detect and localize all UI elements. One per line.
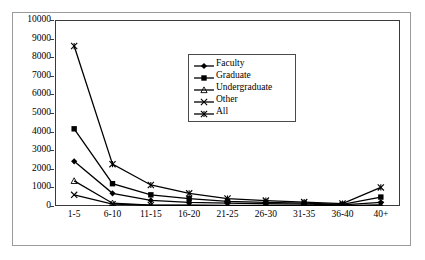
data-point-asterisk-marker <box>378 184 384 190</box>
data-point-square-marker <box>148 192 153 197</box>
x-axis-tick-label: 11-15 <box>140 210 162 220</box>
y-axis-tick-label: 10000 <box>5 15 51 25</box>
y-axis-tick-labels: 0100020003000400050006000700080009000100… <box>0 20 51 206</box>
y-axis-tick-mark <box>50 76 54 77</box>
data-point-square-marker <box>378 194 383 199</box>
y-axis-tick-mark <box>50 169 54 170</box>
y-axis-tick-label: 6000 <box>5 89 51 99</box>
y-axis-tick-mark <box>50 94 54 95</box>
y-axis-tick-mark <box>50 20 54 21</box>
legend-cross-icon <box>193 94 215 106</box>
data-point-asterisk-marker <box>109 161 115 167</box>
x-axis-tick-label: 31-35 <box>293 210 315 220</box>
legend-item-label: Graduate <box>216 71 251 81</box>
x-axis-tick-labels: 1-56-1011-1516-2021-2526-3031-3536-4040+ <box>55 210 400 230</box>
x-axis-tick-label: 36-40 <box>331 210 353 220</box>
data-point-triangle-marker <box>71 178 77 184</box>
chart-legend: FacultyGraduateUndergraduateOtherAll <box>188 54 296 122</box>
legend-item-label: Faculty <box>216 59 245 69</box>
legend-triangle-icon <box>193 82 215 94</box>
y-axis-tick-mark <box>50 39 54 40</box>
legend-item-label: Other <box>216 95 238 105</box>
data-point-diamond-marker <box>201 63 207 69</box>
y-axis-tick-mark <box>50 113 54 114</box>
legend-item-faculty[interactable]: Faculty <box>193 58 291 70</box>
legend-diamond-icon <box>193 58 215 70</box>
y-axis-tick-mark <box>50 206 54 207</box>
chart-figure: 0100020003000400050006000700080009000100… <box>0 0 425 260</box>
legend-item-label: Undergraduate <box>216 83 272 93</box>
x-axis-tick-label: 21-25 <box>216 210 238 220</box>
x-axis-tick-label: 40+ <box>373 210 388 220</box>
y-axis-tick-label: 1000 <box>5 182 51 192</box>
series-line <box>74 129 381 205</box>
y-axis-tick-mark <box>50 187 54 188</box>
legend-square-icon <box>193 70 215 82</box>
y-axis-tick-label: 2000 <box>5 164 51 174</box>
y-axis-tick-label: 3000 <box>5 145 51 155</box>
legend-asterisk-icon <box>193 106 215 118</box>
legend-item-all[interactable]: All <box>193 106 291 118</box>
legend-item-graduate[interactable]: Graduate <box>193 70 291 82</box>
legend-item-label: All <box>216 107 228 117</box>
data-point-square-marker <box>110 181 115 186</box>
y-axis-tick-label: 9000 <box>5 34 51 44</box>
x-axis-tick-label: 1-5 <box>68 210 81 220</box>
data-point-square-marker <box>186 196 191 201</box>
data-point-square-marker <box>71 126 76 131</box>
data-point-asterisk-marker <box>71 43 77 49</box>
y-axis-tick-label: 8000 <box>5 52 51 62</box>
x-axis-tick-label: 16-20 <box>178 210 200 220</box>
y-axis-tick-label: 0 <box>5 201 51 211</box>
y-axis-tick-label: 5000 <box>5 108 51 118</box>
y-axis-tick-label: 4000 <box>5 127 51 137</box>
legend-item-undergraduate[interactable]: Undergraduate <box>193 82 291 94</box>
y-axis-tick-label: 7000 <box>5 71 51 81</box>
y-axis-tick-mark <box>50 57 54 58</box>
data-point-square-marker <box>201 75 206 80</box>
x-axis-tick-label: 26-30 <box>255 210 277 220</box>
legend-item-other[interactable]: Other <box>193 94 291 106</box>
y-axis-tick-mark <box>50 132 54 133</box>
x-axis-tick-label: 6-10 <box>104 210 121 220</box>
series-undergraduate <box>71 178 384 206</box>
y-axis-tick-mark <box>50 150 54 151</box>
